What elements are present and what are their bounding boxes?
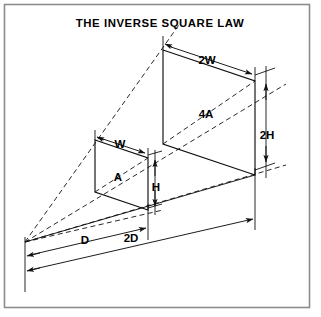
figure-frame — [5, 5, 310, 308]
far-distance-label: 2D — [124, 232, 139, 244]
far-width-label: 2W — [198, 54, 215, 66]
near-area-label: A — [114, 171, 122, 183]
near-height-label: H — [152, 181, 160, 193]
near-width-label: W — [115, 138, 126, 150]
far-area-label: 4A — [199, 108, 214, 120]
far-height-label: 2H — [260, 129, 275, 141]
near-distance-label: D — [81, 234, 89, 246]
figure-canvas: THE INVERSE SQUARE LAW W A H 2W 4A 2H D … — [0, 0, 321, 317]
inverse-square-law-figure: THE INVERSE SQUARE LAW W A H 2W 4A 2H D … — [0, 0, 321, 317]
figure-title: THE INVERSE SQUARE LAW — [76, 17, 244, 29]
